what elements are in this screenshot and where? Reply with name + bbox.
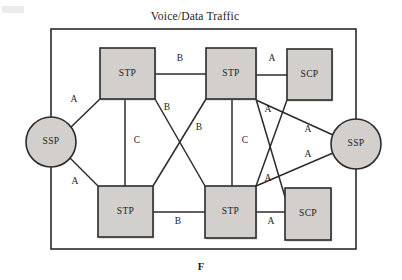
link-label-stp-tm--stp-bm: C [242,136,248,146]
figure-canvas: Voice/Data Traffic F SSPSSPSTPSTPSCPSTPS… [0,0,402,280]
node-label-ssp-right: SSP [348,139,365,149]
link-label-stp-bm--scp-br: A [268,217,275,227]
node-label-scp-top-right: SCP [301,70,319,80]
network-diagram [0,0,402,280]
link-label-stp-tl--stp-bm: B [164,103,170,113]
link-label-stp-bl--stp-bm: B [175,217,181,227]
link-label-stp-tm--scp-tr: A [269,54,276,64]
link-label-stp-tm--stp-bl: B [196,123,202,133]
node-label-stp-bottom-mid: STP [222,207,239,217]
link-label-ssp-l--stp-tl: A [71,95,78,105]
f-link-label: F [198,262,204,273]
link-label-stp-bm--scp-tr: A [265,174,272,184]
node-label-ssp-left: SSP [43,137,60,147]
node-label-stp-top-mid: STP [222,69,239,79]
figure-title: Voice/Data Traffic [151,11,239,23]
node-label-stp-top-left: STP [119,69,136,79]
link-label-stp-tl--stp-tm: B [177,54,183,64]
link-label-ssp-r--stp-tm: A [305,125,312,135]
node-label-scp-bottom-right: SCP [299,209,317,219]
link-label-ssp-l--stp-bl: A [72,177,79,187]
link-label-stp-tm--scp-br: A [265,105,272,115]
node-label-stp-bottom-left: STP [117,207,134,217]
link-label-stp-tl--stp-bl: C [134,136,140,146]
link-label-ssp-r--stp-bm: A [305,150,312,160]
